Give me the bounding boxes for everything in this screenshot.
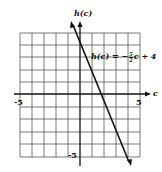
line-arrow-bottom-icon <box>127 159 132 166</box>
x-axis-arrow-icon <box>145 92 151 97</box>
x-tick-max: 5 <box>136 97 142 107</box>
y-axis-arrow-icon <box>78 21 83 27</box>
x-axis-label: c <box>153 88 158 98</box>
equation-rhs: c + 4 <box>134 51 157 61</box>
x-tick-min: -5 <box>14 97 23 107</box>
y-tick-min: -5 <box>68 150 77 160</box>
equation-lhs: h(c) = − <box>91 51 128 61</box>
fraction-denominator: 2 <box>129 58 132 63</box>
line-arrow-top-icon <box>70 21 75 28</box>
equation-label: h(c) = −52c + 4 <box>91 51 156 63</box>
fraction: 52 <box>129 52 132 63</box>
chart-svg <box>0 0 162 172</box>
y-axis-label: h(c) <box>74 8 92 18</box>
